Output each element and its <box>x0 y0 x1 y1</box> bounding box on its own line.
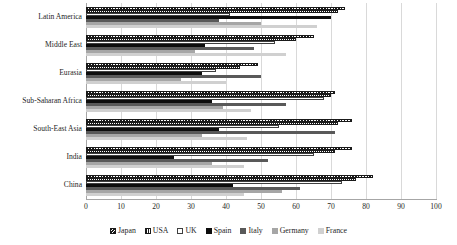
bar-row <box>86 193 436 196</box>
category-group <box>86 175 436 196</box>
x-tick-label: 70 <box>327 201 335 212</box>
category-label-south-east-asia: South-East Asia <box>0 124 82 133</box>
gridline <box>436 3 437 199</box>
legend-item-usa[interactable]: USA <box>145 226 169 236</box>
plot-area <box>86 3 436 199</box>
bar-row <box>86 25 436 28</box>
category-group <box>86 7 436 28</box>
bar-france-south-east-asia[interactable] <box>86 137 247 140</box>
bar-france-sub-saharan-africa[interactable] <box>86 109 251 112</box>
value-axis-ticks: 0102030405060708090100 <box>86 201 437 215</box>
bar-france-middle-east[interactable] <box>86 53 286 56</box>
legend-label: Japan <box>118 226 136 236</box>
category-axis-line <box>86 199 437 200</box>
legend-swatch-icon <box>272 228 278 234</box>
legend-item-france[interactable]: France <box>318 226 347 236</box>
bar-france-latin-america[interactable] <box>86 25 317 28</box>
category-axis-labels: Latin AmericaMiddle EastEurasiaSub-Sahar… <box>0 3 82 199</box>
category-group <box>86 119 436 140</box>
legend-swatch-icon <box>318 228 324 234</box>
x-tick-label: 20 <box>152 201 160 212</box>
x-tick-label: 90 <box>397 201 405 212</box>
legend-label: Italy <box>248 226 262 236</box>
category-group <box>86 147 436 168</box>
legend-swatch-icon <box>177 228 183 234</box>
bar-row <box>86 81 436 84</box>
legend-swatch-icon <box>240 228 246 234</box>
legend-item-italy[interactable]: Italy <box>240 226 262 236</box>
bar-row <box>86 109 436 112</box>
category-label-china: China <box>0 180 82 189</box>
category-label-middle-east: Middle East <box>0 40 82 49</box>
category-label-india: India <box>0 152 82 161</box>
legend-label: USA <box>153 226 169 236</box>
x-tick-label: 60 <box>292 201 300 212</box>
bar-france-india[interactable] <box>86 165 244 168</box>
x-tick-label: 30 <box>187 201 195 212</box>
x-tick-label: 0 <box>84 201 88 212</box>
legend-item-uk[interactable]: UK <box>177 226 196 236</box>
chart-legend: JapanUSAUKSpainItalyGermanyFrance <box>0 224 457 238</box>
category-group <box>86 91 436 112</box>
category-label-latin-america: Latin America <box>0 12 82 21</box>
bar-row <box>86 137 436 140</box>
bar-row <box>86 53 436 56</box>
legend-label: Spain <box>214 226 232 236</box>
legend-label: UK <box>185 226 196 236</box>
legend-item-germany[interactable]: Germany <box>272 226 309 236</box>
x-tick-label: 50 <box>257 201 265 212</box>
legend-label: France <box>326 226 347 236</box>
legend-swatch-icon <box>206 228 212 234</box>
legend-swatch-icon <box>145 228 151 234</box>
category-group <box>86 63 436 84</box>
legend-item-japan[interactable]: Japan <box>110 226 136 236</box>
bar-france-eurasia[interactable] <box>86 81 226 84</box>
bar-chart: Latin AmericaMiddle EastEurasiaSub-Sahar… <box>0 0 457 245</box>
x-tick-label: 100 <box>430 201 441 212</box>
category-group <box>86 35 436 56</box>
bar-row <box>86 165 436 168</box>
bar-france-china[interactable] <box>86 193 244 196</box>
legend-swatch-icon <box>110 228 116 234</box>
x-tick-label: 40 <box>222 201 230 212</box>
x-tick-label: 80 <box>362 201 370 212</box>
legend-item-spain[interactable]: Spain <box>206 226 232 236</box>
category-label-sub-saharan-africa: Sub-Saharan Africa <box>0 96 82 105</box>
x-tick-label: 10 <box>117 201 125 212</box>
legend-label: Germany <box>280 226 309 236</box>
category-label-eurasia: Eurasia <box>0 68 82 77</box>
